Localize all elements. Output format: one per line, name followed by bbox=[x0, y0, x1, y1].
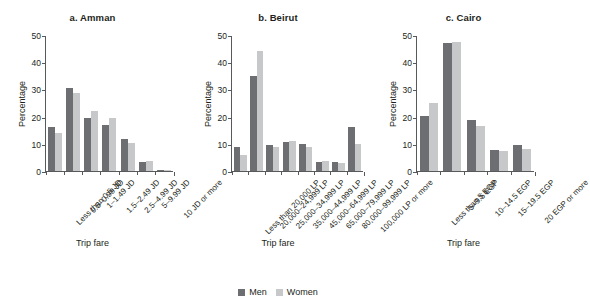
y-axis-tick-label: 20 bbox=[403, 113, 412, 123]
chart-panels: a. Amman Percentage01020304050Less than … bbox=[0, 0, 556, 260]
bar-women bbox=[452, 42, 461, 171]
y-axis-label: Percentage bbox=[388, 36, 398, 172]
bar-group bbox=[82, 36, 100, 171]
y-axis-tick-label: 40 bbox=[32, 58, 41, 68]
x-axis-tick bbox=[174, 172, 175, 176]
bar-men bbox=[420, 116, 429, 171]
y-axis-tick-label: 0 bbox=[222, 167, 227, 177]
bar-women bbox=[240, 155, 247, 171]
panel-title-beirut: b. Beirut bbox=[185, 12, 371, 23]
legend-item-women: Women bbox=[276, 287, 318, 297]
y-axis-tick-label: 10 bbox=[32, 140, 41, 150]
legend-label-women: Women bbox=[287, 287, 318, 297]
bar-group bbox=[155, 36, 173, 171]
bar-groups bbox=[232, 36, 363, 171]
bar-women bbox=[322, 161, 329, 171]
plot-area: 01020304050Less than 5 EGP5–9.5 EGP10–14… bbox=[416, 36, 534, 172]
x-axis-categories: Less than 5 EGP5–9.5 EGP10–14.5 EGP15–19… bbox=[417, 171, 534, 172]
bar-groups bbox=[46, 36, 173, 171]
bar-group bbox=[119, 36, 137, 171]
y-axis-tick-label: 50 bbox=[32, 31, 41, 41]
bar-women bbox=[499, 151, 508, 171]
bar-women bbox=[429, 103, 438, 171]
bar-men bbox=[513, 145, 522, 171]
y-axis-label: Percentage bbox=[17, 36, 27, 172]
y-axis-tick-label: 30 bbox=[218, 85, 227, 95]
bar-men bbox=[66, 88, 73, 171]
plot-area: 01020304050Less than 0.5 JD0.5–0.99 JD1–… bbox=[45, 36, 173, 172]
bar-group bbox=[347, 36, 363, 171]
legend-label-men: Men bbox=[249, 287, 267, 297]
panel-title-amman: a. Amman bbox=[0, 12, 185, 23]
bar-women bbox=[257, 51, 264, 171]
bar-group bbox=[46, 36, 64, 171]
legend-item-men: Men bbox=[238, 287, 267, 297]
bar-group bbox=[330, 36, 346, 171]
bar-women bbox=[355, 144, 362, 171]
bar-men bbox=[139, 162, 146, 171]
panel-beirut: b. Beirut Percentage01020304050Less than… bbox=[185, 0, 371, 260]
x-axis-tick bbox=[364, 172, 365, 176]
bar-group bbox=[281, 36, 297, 171]
y-axis-tick-label: 20 bbox=[218, 113, 227, 123]
x-axis-label: Trip fare bbox=[185, 238, 371, 248]
bar-women bbox=[128, 143, 135, 171]
y-axis-tick-label: 10 bbox=[403, 140, 412, 150]
bar-women bbox=[109, 118, 116, 171]
x-axis-label: Trip fare bbox=[371, 238, 556, 248]
y-axis-tick-label: 20 bbox=[32, 113, 41, 123]
panel-title-cairo: c. Cairo bbox=[371, 12, 556, 23]
bar-men bbox=[467, 120, 476, 171]
x-axis-categories: Less than 20,000 LP20,000–24,999 LP25,00… bbox=[232, 171, 363, 172]
y-axis-tick-label: 0 bbox=[407, 167, 412, 177]
y-axis-tick-label: 50 bbox=[218, 31, 227, 41]
bar-men bbox=[102, 125, 109, 171]
bar-group bbox=[232, 36, 248, 171]
bar-group bbox=[487, 36, 510, 171]
bar-women bbox=[146, 161, 153, 171]
bar-group bbox=[314, 36, 330, 171]
bar-group bbox=[511, 36, 534, 171]
bar-group bbox=[440, 36, 463, 171]
bar-men bbox=[84, 118, 91, 171]
bar-women bbox=[91, 111, 98, 171]
x-axis-category-label: 5–9.5 EGP bbox=[467, 178, 501, 212]
bar-women bbox=[338, 163, 345, 171]
x-axis-label: Trip fare bbox=[0, 238, 185, 248]
bar-group bbox=[298, 36, 314, 171]
legend-swatch-women bbox=[276, 289, 283, 296]
bar-group bbox=[64, 36, 82, 171]
bar-women bbox=[55, 133, 62, 171]
bar-women bbox=[306, 147, 313, 171]
bar-men bbox=[443, 43, 452, 171]
y-axis-tick-label: 0 bbox=[36, 167, 41, 177]
bar-group bbox=[417, 36, 440, 171]
y-axis-tick-label: 50 bbox=[403, 31, 412, 41]
bar-men bbox=[490, 150, 499, 171]
plot-area: 01020304050Less than 20,000 LP20,000–24,… bbox=[231, 36, 363, 172]
bar-women bbox=[476, 126, 485, 171]
bar-women bbox=[522, 149, 531, 171]
bar-women bbox=[273, 147, 280, 171]
x-axis-tick bbox=[535, 172, 536, 176]
bar-group bbox=[137, 36, 155, 171]
legend-swatch-men bbox=[238, 289, 245, 296]
x-axis-categories: Less than 0.5 JD0.5–0.99 JD1–1.49 JD1.5–… bbox=[46, 171, 173, 172]
bar-women bbox=[73, 93, 80, 171]
bar-men bbox=[48, 127, 55, 171]
bar-group bbox=[100, 36, 118, 171]
y-axis-label: Percentage bbox=[203, 36, 213, 172]
bar-group bbox=[265, 36, 281, 171]
y-axis-tick-label: 10 bbox=[218, 140, 227, 150]
y-axis-tick-label: 40 bbox=[403, 58, 412, 68]
panel-cairo: c. Cairo Percentage01020304050Less than … bbox=[371, 0, 556, 260]
legend: Men Women bbox=[0, 287, 556, 297]
y-axis-tick-label: 40 bbox=[218, 58, 227, 68]
bar-group bbox=[248, 36, 264, 171]
y-axis-tick-label: 30 bbox=[32, 85, 41, 95]
panel-amman: a. Amman Percentage01020304050Less than … bbox=[0, 0, 185, 260]
y-axis-tick-label: 30 bbox=[403, 85, 412, 95]
bar-groups bbox=[417, 36, 534, 171]
bar-women bbox=[289, 141, 296, 171]
bar-men bbox=[121, 139, 128, 171]
